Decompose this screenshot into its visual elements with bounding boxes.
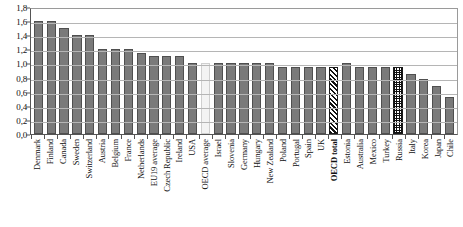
bar <box>316 67 325 134</box>
category-label: Chile <box>446 139 455 157</box>
category-label: Sweden <box>72 139 81 165</box>
category-slot: Netherlands <box>134 139 147 225</box>
category-slot: Ireland <box>173 139 186 225</box>
category-label: Japan <box>433 139 442 158</box>
bar <box>188 63 197 134</box>
bar-slot <box>109 9 122 134</box>
category-slot: Slovenia <box>225 139 238 225</box>
bar <box>368 67 377 134</box>
gridline <box>31 94 457 95</box>
category-label: Slovenia <box>227 139 236 168</box>
bar <box>201 63 210 134</box>
category-label: Netherlands <box>136 139 145 179</box>
bar-slot <box>148 9 161 134</box>
category-slot: Poland <box>276 139 289 225</box>
category-slot: Estonia <box>341 139 354 225</box>
gridline <box>31 122 457 123</box>
category-label: Austria <box>98 139 107 163</box>
bar-slot <box>83 9 96 134</box>
bar <box>291 67 300 134</box>
bar-slot <box>199 9 212 134</box>
bar-slot <box>340 9 353 134</box>
bar-slot <box>238 9 251 134</box>
bar-slot <box>250 9 263 134</box>
bar-slot <box>212 9 225 134</box>
bar-slot <box>430 9 443 134</box>
bar-slot <box>404 9 417 134</box>
category-slot: OECD total <box>328 139 341 225</box>
bar-slot <box>173 9 186 134</box>
category-slot: Portugal <box>289 139 302 225</box>
category-label: UK <box>317 139 326 151</box>
category-label: Ireland <box>175 139 184 162</box>
category-label: Poland <box>278 139 287 162</box>
category-label: Portugal <box>291 139 300 167</box>
bar-slot <box>302 9 315 134</box>
bar-slot <box>71 9 84 134</box>
category-slot: Belgium <box>108 139 121 225</box>
category-label: Mexico <box>369 139 378 164</box>
gridline <box>31 108 457 109</box>
category-label: Spain <box>304 139 313 158</box>
category-label: Finland <box>46 139 55 164</box>
bar-slot <box>45 9 58 134</box>
bar <box>252 63 261 134</box>
bar-slot <box>263 9 276 134</box>
category-slot: Mexico <box>367 139 380 225</box>
category-slot: Italy <box>405 139 418 225</box>
bar-slot <box>160 9 173 134</box>
category-slot: Austria <box>96 139 109 225</box>
category-label: New Zealand <box>266 139 275 183</box>
bar <box>72 35 81 134</box>
bar <box>85 35 94 134</box>
category-slot: OECD average <box>199 139 212 225</box>
bar-slot <box>122 9 135 134</box>
category-slot: Denmark <box>31 139 44 225</box>
bar-slot <box>32 9 45 134</box>
category-label: Germany <box>240 139 249 170</box>
category-label: Israel <box>214 139 223 157</box>
category-slot: Japan <box>431 139 444 225</box>
bar <box>304 67 313 134</box>
bar <box>226 63 235 134</box>
category-label: EU19 average <box>149 139 158 186</box>
category-slot: Australia <box>354 139 367 225</box>
category-label: Korea <box>420 139 429 159</box>
bar-slot <box>276 9 289 134</box>
category-label: Estonia <box>343 139 352 164</box>
gridline <box>31 80 457 81</box>
category-slot: USA <box>186 139 199 225</box>
gridline <box>31 65 457 66</box>
category-label: OECD total <box>330 139 339 181</box>
bar-slot <box>225 9 238 134</box>
category-slot: Korea <box>418 139 431 225</box>
category-slot: Chile <box>444 139 457 225</box>
category-label: France <box>124 139 133 162</box>
category-label: Belgium <box>111 139 120 168</box>
category-label: Hungary <box>253 139 262 168</box>
category-slot: Russia <box>392 139 405 225</box>
bar <box>329 67 338 134</box>
bar-slot <box>366 9 379 134</box>
category-label: Switzerland <box>85 139 94 179</box>
bar <box>265 63 274 134</box>
category-slot: Sweden <box>70 139 83 225</box>
category-slot: Israel <box>212 139 225 225</box>
bar <box>342 63 351 134</box>
category-label: OECD average <box>201 139 210 190</box>
category-label: Canada <box>59 139 68 164</box>
bar <box>239 63 248 134</box>
category-slot: Germany <box>238 139 251 225</box>
category-slot: Finland <box>44 139 57 225</box>
category-label: Denmark <box>33 139 42 170</box>
bar-slot <box>289 9 302 134</box>
category-label: Czech Republic <box>162 139 171 192</box>
bar-slot <box>315 9 328 134</box>
bar <box>381 67 390 134</box>
bar-slot <box>417 9 430 134</box>
category-slot: Switzerland <box>83 139 96 225</box>
bar-series <box>31 9 457 134</box>
category-slot: EU19 average <box>147 139 160 225</box>
bar <box>278 67 287 134</box>
bar <box>59 28 68 134</box>
